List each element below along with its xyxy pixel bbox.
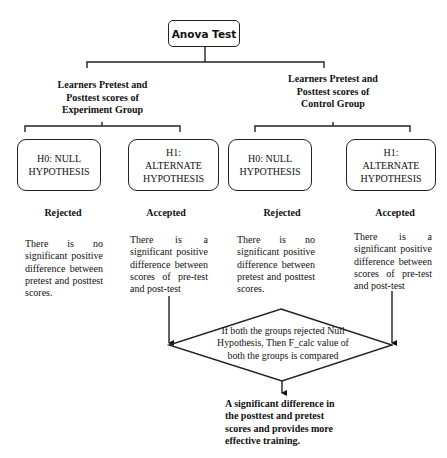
hypothesis-line: H0: NULL xyxy=(28,152,89,165)
hypothesis-line: H1: xyxy=(360,146,421,159)
hypothesis-line: ALTERNATE xyxy=(143,159,204,172)
hypothesis-line: H0: NULL xyxy=(239,152,300,165)
hypothesis-line: ALTERNATE xyxy=(360,159,421,172)
control-null-verdict: Rejected xyxy=(237,207,327,218)
control-group-label-line: Control Group xyxy=(268,98,398,111)
control-group-label: Learners Pretest and Posttest scores of … xyxy=(268,73,398,111)
decision-line: both the groups is compared xyxy=(206,350,360,362)
control-null-hypothesis-node: H0: NULL HYPOTHESIS xyxy=(228,139,312,191)
connector-lines xyxy=(0,0,447,458)
hypothesis-line: HYPOTHESIS xyxy=(239,165,300,178)
anova-test-node: Anova Test xyxy=(168,20,240,47)
experiment-null-description: There is no significant positive differe… xyxy=(25,238,103,299)
control-alternate-verdict: Accepted xyxy=(350,207,440,218)
decision-line: If both the groups rejected Null xyxy=(206,325,360,337)
experiment-group-label-line: Posttest scores of xyxy=(40,92,165,105)
control-alternate-description: There is a significant positive differen… xyxy=(354,231,432,292)
hypothesis-line: HYPOTHESIS xyxy=(28,165,89,178)
conclusion-line: scores and provides more xyxy=(225,423,375,435)
conclusion-text: A significant difference in the posttest… xyxy=(225,398,375,447)
experiment-group-label-line: Learners Pretest and xyxy=(40,79,165,92)
control-group-label-line: Learners Pretest and xyxy=(268,73,398,86)
decision-diamond-text: If both the groups rejected Null Hypothe… xyxy=(206,325,360,362)
hypothesis-line: HYPOTHESIS xyxy=(143,172,204,185)
conclusion-line: effective training. xyxy=(225,435,375,447)
experiment-alternate-description: There is a significant positive differen… xyxy=(130,234,208,295)
experiment-null-verdict: Rejected xyxy=(18,207,108,218)
experiment-null-hypothesis-node: H0: NULL HYPOTHESIS xyxy=(17,139,101,191)
anova-test-label: Anova Test xyxy=(172,28,237,40)
conclusion-line: the posttest and pretest xyxy=(225,410,375,422)
control-alternate-hypothesis-node: H1: ALTERNATE HYPOTHESIS xyxy=(346,139,436,191)
hypothesis-line: H1: xyxy=(143,146,204,159)
control-null-description: There is no significant positive differe… xyxy=(237,234,315,295)
control-group-label-line: Posttest scores of xyxy=(268,86,398,99)
experiment-alternate-verdict: Accepted xyxy=(121,207,211,218)
experiment-group-label: Learners Pretest and Posttest scores of … xyxy=(40,79,165,117)
conclusion-line: A significant difference in xyxy=(225,398,375,410)
experiment-alternate-hypothesis-node: H1: ALTERNATE HYPOTHESIS xyxy=(128,139,219,191)
experiment-group-label-line: Experiment Group xyxy=(40,104,165,117)
hypothesis-line: HYPOTHESIS xyxy=(360,172,421,185)
decision-line: Hypothesis, Then F_calc value of xyxy=(206,337,360,349)
